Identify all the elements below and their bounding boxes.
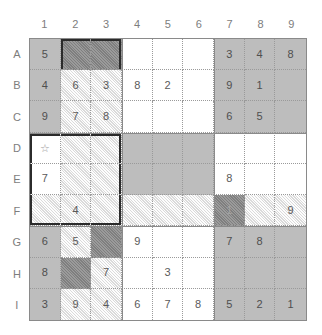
cell-value-C1: 9 <box>42 111 48 122</box>
grid-cell-H2[interactable] <box>61 258 92 289</box>
grid-cell-A1[interactable]: 5 <box>30 39 61 70</box>
grid-cell-H1[interactable]: 8 <box>30 258 61 289</box>
grid-cell-D1[interactable]: ☆ <box>30 133 61 164</box>
grid-cell-F3[interactable] <box>91 195 122 226</box>
grid-cell-H4[interactable] <box>122 258 153 289</box>
grid-cell-C7[interactable]: 6 <box>214 101 245 132</box>
grid-cell-B9[interactable] <box>275 70 306 101</box>
grid-cell-F6[interactable] <box>183 195 214 226</box>
grid-cell-E4[interactable] <box>122 164 153 195</box>
grid-cell-I2[interactable]: 9 <box>61 289 92 320</box>
grid-cell-D2[interactable] <box>61 133 92 164</box>
grid-cell-I4[interactable]: 6 <box>122 289 153 320</box>
grid-cell-C5[interactable] <box>153 101 184 132</box>
grid-cell-G9[interactable] <box>275 226 306 257</box>
grid-cell-H5[interactable]: 3 <box>153 258 184 289</box>
grid-cell-D9[interactable] <box>275 133 306 164</box>
grid-cell-F4[interactable] <box>122 195 153 226</box>
grid-cell-D8[interactable] <box>245 133 276 164</box>
grid-cell-G7[interactable]: 7 <box>214 226 245 257</box>
grid-cell-I5[interactable]: 7 <box>153 289 184 320</box>
grid-cell-F5[interactable] <box>153 195 184 226</box>
grid-cell-D7[interactable] <box>214 133 245 164</box>
row-header-F: F <box>8 195 26 226</box>
grid-cell-D5[interactable] <box>153 133 184 164</box>
grid-cell-B4[interactable]: 8 <box>122 70 153 101</box>
cell-value-H5: 3 <box>164 267 170 278</box>
column-header-3: 3 <box>91 14 122 34</box>
grid-cell-A5[interactable] <box>153 39 184 70</box>
cell-value-B3: 3 <box>103 80 109 91</box>
grid-cell-A6[interactable] <box>183 39 214 70</box>
grid-cell-A2[interactable] <box>61 39 92 70</box>
cell-value-I8: 2 <box>256 299 262 310</box>
grid-cell-F8[interactable] <box>245 195 276 226</box>
grid-cell-I9[interactable]: 1 <box>275 289 306 320</box>
grid-cell-E6[interactable] <box>183 164 214 195</box>
grid-cell-C1[interactable]: 9 <box>30 101 61 132</box>
grid-cell-I6[interactable]: 8 <box>183 289 214 320</box>
grid-cell-B8[interactable]: 1 <box>245 70 276 101</box>
cell-value-E7: 8 <box>226 173 232 184</box>
grid-cell-G4[interactable]: 9 <box>122 226 153 257</box>
grid-cell-H3[interactable]: 7 <box>91 258 122 289</box>
grid-cell-E8[interactable] <box>245 164 276 195</box>
grid-cell-I1[interactable]: 3 <box>30 289 61 320</box>
cell-value-E1: 7 <box>42 173 48 184</box>
grid-cell-B7[interactable]: 9 <box>214 70 245 101</box>
grid-cell-G3[interactable] <box>91 226 122 257</box>
grid-cell-B2[interactable]: 6 <box>61 70 92 101</box>
grid-cell-G5[interactable] <box>153 226 184 257</box>
grid-cell-F1[interactable] <box>30 195 61 226</box>
grid-cell-G2[interactable]: 5 <box>61 226 92 257</box>
cell-value-H1: 8 <box>42 267 48 278</box>
cell-value-A7: 3 <box>226 49 232 60</box>
grid-cell-D4[interactable] <box>122 133 153 164</box>
grid-cell-B3[interactable]: 3 <box>91 70 122 101</box>
cell-value-I3: 4 <box>103 299 109 310</box>
grid-cell-E2[interactable] <box>61 164 92 195</box>
grid-cell-A8[interactable]: 4 <box>245 39 276 70</box>
grid-cell-F7[interactable]: 1 <box>214 195 245 226</box>
grid-cell-C6[interactable] <box>183 101 214 132</box>
cell-value-I4: 6 <box>134 299 140 310</box>
grid-cell-A9[interactable]: 8 <box>275 39 306 70</box>
grid-cell-C2[interactable]: 7 <box>61 101 92 132</box>
grid-cell-B5[interactable]: 2 <box>153 70 184 101</box>
grid-cell-B6[interactable] <box>183 70 214 101</box>
grid-cell-H8[interactable] <box>245 258 276 289</box>
cell-value-G2: 5 <box>72 236 78 247</box>
grid-cell-E7[interactable]: 8 <box>214 164 245 195</box>
grid-cell-G6[interactable] <box>183 226 214 257</box>
grid-cell-E3[interactable] <box>91 164 122 195</box>
grid-cell-C3[interactable]: 8 <box>91 101 122 132</box>
grid-cell-F2[interactable]: 4 <box>61 195 92 226</box>
grid-cell-C4[interactable] <box>122 101 153 132</box>
grid-cell-C8[interactable]: 5 <box>245 101 276 132</box>
column-header-9: 9 <box>276 14 307 34</box>
cell-value-A1: 5 <box>42 49 48 60</box>
grid-cell-A7[interactable]: 3 <box>214 39 245 70</box>
grid-cell-D6[interactable] <box>183 133 214 164</box>
grid-cell-H9[interactable] <box>275 258 306 289</box>
grid-cell-C9[interactable] <box>275 101 306 132</box>
grid-cell-A4[interactable] <box>122 39 153 70</box>
cell-value-H3: 7 <box>103 267 109 278</box>
cell-value-I7: 5 <box>226 299 232 310</box>
grid-cell-H6[interactable] <box>183 258 214 289</box>
grid-cell-B1[interactable]: 4 <box>30 70 61 101</box>
grid-cell-I3[interactable]: 4 <box>91 289 122 320</box>
grid-cell-H7[interactable] <box>214 258 245 289</box>
grid-cell-D3[interactable] <box>91 133 122 164</box>
grid-cell-F9[interactable]: 9 <box>275 195 306 226</box>
grid-cell-E1[interactable]: 7 <box>30 164 61 195</box>
grid-cell-E5[interactable] <box>153 164 184 195</box>
grid-cell-G1[interactable]: 6 <box>30 226 61 257</box>
grid-cell-I7[interactable]: 5 <box>214 289 245 320</box>
column-header-row: 123456789 <box>29 14 307 34</box>
cell-value-I9: 1 <box>288 299 294 310</box>
grid-cell-E9[interactable] <box>275 164 306 195</box>
grid-cell-I8[interactable]: 2 <box>245 289 276 320</box>
grid-cell-A3[interactable] <box>91 39 122 70</box>
grid-cell-G8[interactable]: 8 <box>245 226 276 257</box>
